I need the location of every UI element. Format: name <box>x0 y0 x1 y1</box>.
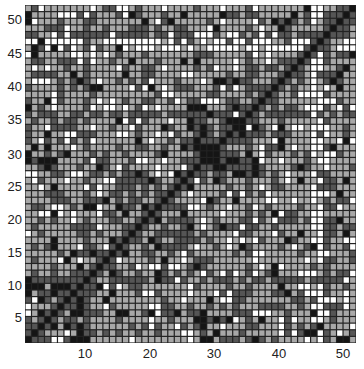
x-tick-10: 10 <box>70 347 100 361</box>
y-tick-10: 10 <box>0 279 22 293</box>
y-tick-50: 50 <box>0 13 22 27</box>
y-tick-5: 5 <box>0 311 22 325</box>
x-tick-20: 20 <box>135 347 165 361</box>
x-tick-30: 30 <box>199 347 229 361</box>
heatmap-plot <box>25 5 356 343</box>
y-tick-20: 20 <box>0 213 22 227</box>
y-tick-35: 35 <box>0 113 22 127</box>
y-tick-45: 45 <box>0 47 22 61</box>
x-tick-50: 50 <box>328 347 358 361</box>
y-tick-40: 40 <box>0 80 22 94</box>
y-tick-25: 25 <box>0 180 22 194</box>
x-tick-40: 40 <box>264 347 294 361</box>
y-tick-15: 15 <box>0 246 22 260</box>
y-tick-30: 30 <box>0 148 22 162</box>
